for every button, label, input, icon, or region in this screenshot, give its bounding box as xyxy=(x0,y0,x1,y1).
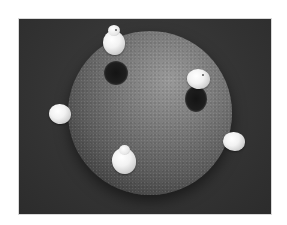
duck-head xyxy=(108,25,120,36)
duck-figure-left xyxy=(49,104,71,124)
duck-head xyxy=(119,145,130,155)
figure-shadow-top xyxy=(104,61,128,85)
duck-eye xyxy=(115,29,117,31)
duck-figure-far-right xyxy=(223,132,245,151)
duck-figure-bottom xyxy=(112,148,136,174)
duck-eye xyxy=(202,74,204,76)
sphere xyxy=(68,31,232,195)
duck-figure-right xyxy=(187,69,210,89)
image-frame xyxy=(18,18,272,215)
duck-figure-top xyxy=(103,31,125,55)
figure-shadow-right xyxy=(185,86,207,112)
